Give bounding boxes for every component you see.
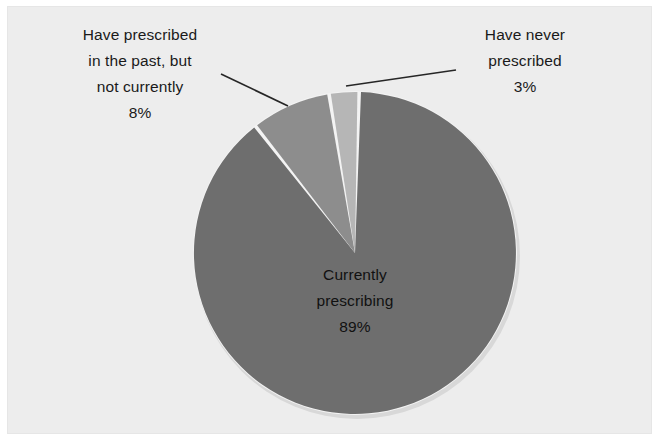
slice-label-line-2: prescribed <box>430 48 620 74</box>
slice-value-currently-prescribing: 89% <box>255 314 455 340</box>
slice-label-line-1: Currently <box>255 262 455 288</box>
slice-label-prescribed-in-past: Have prescribed in the past, but not cur… <box>30 22 250 126</box>
slice-label-line-2: prescribing <box>255 288 455 314</box>
slice-label-currently-prescribing: Currently prescribing 89% <box>255 262 455 340</box>
slice-label-line-3: not currently <box>30 74 250 100</box>
slice-value-never-prescribed: 3% <box>430 74 620 100</box>
slice-label-never-prescribed: Have never prescribed 3% <box>430 22 620 100</box>
slice-value-prescribed-in-past: 8% <box>30 100 250 126</box>
slice-label-line-2: in the past, but <box>30 48 250 74</box>
pie-chart-figure: Have prescribed in the past, but not cur… <box>0 0 659 441</box>
slice-label-line-1: Have prescribed <box>30 22 250 48</box>
slice-label-line-1: Have never <box>430 22 620 48</box>
